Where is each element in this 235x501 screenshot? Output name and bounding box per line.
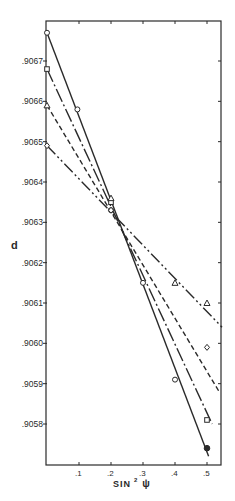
plot-frame — [46, 21, 221, 465]
circle-marker-icon — [173, 377, 178, 382]
x-axis-label: SIN2ψ — [113, 477, 151, 489]
x-tick-label: .5 — [203, 469, 210, 478]
y-tick-label: .9059 — [22, 379, 44, 389]
x-axis-label-superscript: 2 — [134, 477, 138, 483]
chart-container: .9058.9059.9060.9061.9062.9063.9064.9065… — [0, 0, 235, 501]
y-tick-label: .9065 — [22, 137, 44, 147]
y-tick-label: .9060 — [22, 338, 44, 348]
fit-lines — [47, 33, 222, 456]
x-tick-label: .3 — [139, 469, 146, 478]
y-tick-label: .9063 — [22, 217, 44, 227]
x-tick-label: .4 — [171, 469, 178, 478]
y-axis-label: d — [11, 239, 18, 251]
y-tick-label: .9061 — [22, 298, 44, 308]
x-axis-label-psi: ψ — [142, 478, 151, 489]
diamond-series-fit-line — [47, 146, 222, 327]
square-marker-icon — [45, 67, 50, 72]
square-series-fit-line — [47, 69, 212, 424]
plot-border — [46, 21, 221, 465]
y-tick-label: .9058 — [22, 419, 44, 429]
triangle-marker-icon — [172, 280, 178, 286]
x-axis-label-main: SIN — [113, 479, 131, 489]
y-tick-label: .9062 — [22, 258, 44, 268]
x-tick-label: .1 — [75, 469, 82, 478]
triangle-series-fit-line — [47, 105, 219, 391]
y-tick-label: .9067 — [22, 56, 44, 66]
triangle-marker-icon — [204, 300, 210, 306]
circle-marker-icon — [141, 280, 146, 285]
circle-marker-icon — [75, 107, 80, 112]
x-axis-ticks: .1.2.3.4.5 — [75, 21, 210, 478]
square-marker-icon — [205, 418, 210, 423]
triangle-marker-icon — [44, 102, 50, 108]
filled-circle-marker-icon — [204, 445, 210, 451]
y-tick-label: .9066 — [22, 96, 44, 106]
circle-marker-icon — [45, 30, 50, 35]
diamond-marker-icon — [205, 344, 210, 350]
circle-series-fit-line — [47, 33, 209, 456]
x-tick-label: .2 — [107, 469, 114, 478]
y-tick-label: .9064 — [22, 177, 44, 187]
d-vs-sin2psi-plot: .9058.9059.9060.9061.9062.9063.9064.9065… — [0, 0, 235, 501]
